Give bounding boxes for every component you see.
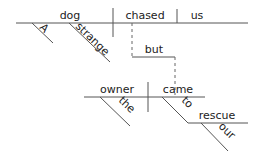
sentence-diagram: dog chased us A strange but owner came t… (0, 0, 260, 154)
word-subject: dog (60, 9, 81, 22)
word-modifier-strange: strange (73, 20, 112, 59)
word-verb: chased (125, 9, 164, 22)
word-object: us (191, 9, 204, 22)
diagram-svg: dog chased us A strange but owner came t… (0, 0, 260, 154)
word-preposition: to (179, 94, 196, 111)
word-prep-object: rescue (199, 109, 236, 122)
word-conjunction: but (145, 43, 164, 56)
word-subject2: owner (100, 83, 134, 96)
